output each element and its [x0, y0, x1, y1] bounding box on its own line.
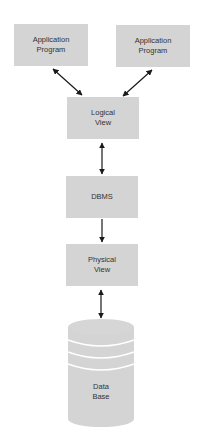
node-application-program-1: Application Program [14, 24, 88, 66]
node-label: Program [139, 46, 168, 56]
node-physical-view: Physical View [66, 244, 138, 286]
node-label: Physical [88, 255, 116, 265]
database-cylinder-icon [68, 319, 134, 427]
node-dbms: DBMS [66, 176, 138, 218]
node-label: View [95, 118, 111, 128]
node-label: Program [37, 45, 66, 55]
node-label: Base [68, 392, 134, 402]
node-label: Logical [91, 108, 115, 118]
node-label: View [94, 265, 110, 275]
node-label: Application [33, 35, 70, 45]
node-database: Data Base [68, 382, 134, 402]
arrow-app1-logical [53, 69, 82, 95]
node-label: Application [135, 36, 172, 46]
node-application-program-2: Application Program [116, 25, 190, 67]
node-label: DBMS [91, 192, 113, 202]
arrow-app2-logical [123, 70, 152, 96]
node-label: Data [68, 382, 134, 392]
node-logical-view: Logical View [67, 97, 139, 139]
